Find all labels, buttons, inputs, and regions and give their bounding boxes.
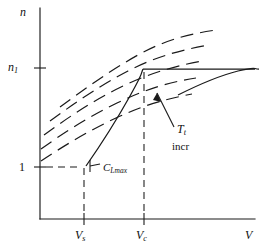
clmax-leader-line: [90, 164, 100, 166]
plot-canvas: [0, 0, 262, 250]
x-tick-label-vs: Vs: [75, 229, 86, 243]
y-tick-label-n1: n1: [8, 61, 18, 75]
y-tick-label-one: 1: [19, 161, 25, 173]
figure-container: n n1 1 Vs Vc V CLmax Tt incr: [0, 0, 262, 250]
y-axis-label: n: [20, 6, 26, 18]
clmax-boundary-curve: [86, 69, 143, 166]
x-tick-label-vc: Vc: [136, 229, 147, 243]
incr-annotation-label: incr: [172, 141, 189, 152]
x-axis-label: V: [245, 229, 252, 241]
thrust-curve-4: [50, 45, 208, 121]
clmax-annotation-label: CLmax: [103, 162, 127, 175]
thrust-curve-merge: [178, 68, 259, 95]
tt-annotation-label: Tt: [177, 123, 186, 137]
